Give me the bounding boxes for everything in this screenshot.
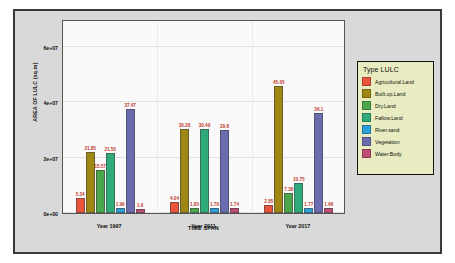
x-axis-title: TIME SPAN xyxy=(62,225,345,231)
bar-item[interactable]: 21.85 xyxy=(86,21,95,213)
legend-swatch xyxy=(362,125,371,134)
bar[interactable] xyxy=(170,202,179,213)
bar-item[interactable]: 10.75 xyxy=(294,21,303,213)
bar-item[interactable]: 36.1 xyxy=(314,21,323,213)
bar[interactable] xyxy=(210,208,219,213)
bar[interactable] xyxy=(136,209,145,213)
bar[interactable] xyxy=(180,129,189,213)
bar-item[interactable]: 29.8 xyxy=(220,21,229,213)
plot-panel: 5.3421.8515.5721.501.9637.471.64.0430.28… xyxy=(62,20,345,214)
legend-item[interactable]: Built.up.Land xyxy=(362,88,429,99)
bar[interactable] xyxy=(324,208,333,213)
bar-value-label: 15.57 xyxy=(94,164,106,169)
bar-item[interactable]: 1.85 xyxy=(190,21,199,213)
bar-item[interactable]: 30.49 xyxy=(200,21,209,213)
legend-items: Agricultural.LandBuilt.up.LandDry.LandFa… xyxy=(362,76,429,159)
legend: Type LULC Agricultural.LandBuilt.up.Land… xyxy=(357,61,434,175)
bar-value-label: 5.34 xyxy=(76,192,85,197)
bar-item[interactable]: 37.47 xyxy=(126,21,135,213)
bar-value-label: 1.77 xyxy=(304,202,313,207)
bar-item[interactable]: 45.65 xyxy=(274,21,283,213)
bar-value-label: 1.76 xyxy=(210,202,219,207)
bar[interactable] xyxy=(76,198,85,213)
bar[interactable] xyxy=(294,183,303,213)
bar[interactable] xyxy=(126,109,135,213)
bar-item[interactable]: 4.04 xyxy=(170,21,179,213)
bar-item[interactable]: 1.66 xyxy=(324,21,333,213)
bar-value-label: 37.47 xyxy=(124,103,136,108)
bar-item[interactable]: 1.6 xyxy=(136,21,145,213)
legend-label: Agricultural.Land xyxy=(375,79,414,85)
legend-swatch xyxy=(362,113,371,122)
legend-swatch xyxy=(362,149,371,158)
bar-item[interactable]: 15.57 xyxy=(96,21,105,213)
bar-value-label: 10.75 xyxy=(293,177,305,182)
legend-label: Fallow.Land xyxy=(375,115,403,121)
bar-value-label: 21.50 xyxy=(104,147,116,152)
bar[interactable] xyxy=(116,208,125,213)
legend-item[interactable]: Water.Body xyxy=(362,148,429,159)
bar-group: 4.0430.281.8530.491.7629.81.74 xyxy=(157,21,251,213)
y-tick-label: 2e+07 xyxy=(43,156,58,162)
bar[interactable] xyxy=(314,113,323,213)
legend-title: Type LULC xyxy=(363,66,429,73)
bar-group: 5.3421.8515.5721.501.9637.471.6 xyxy=(63,21,157,213)
bar[interactable] xyxy=(304,208,313,213)
y-tick-label: 6e+07 xyxy=(43,45,58,51)
legend-swatch xyxy=(362,89,371,98)
bar-value-label: 1.6 xyxy=(137,203,143,208)
bar[interactable] xyxy=(264,205,273,213)
bar-item[interactable]: 1.76 xyxy=(210,21,219,213)
bar-value-label: 1.66 xyxy=(324,202,333,207)
bar[interactable] xyxy=(200,129,209,214)
bar[interactable] xyxy=(284,193,293,213)
bar[interactable] xyxy=(86,152,95,213)
legend-item[interactable]: River.sand xyxy=(362,124,429,135)
legend-label: Water.Body xyxy=(375,151,402,157)
bar-group: 2.8545.657.3810.751.7736.11.66 xyxy=(252,21,345,213)
bar-item[interactable]: 5.34 xyxy=(76,21,85,213)
bar[interactable] xyxy=(230,208,239,213)
y-tick-label: 0e+00 xyxy=(43,211,58,217)
bar-value-label: 45.65 xyxy=(273,80,285,85)
bar-value-label: 4.04 xyxy=(170,196,179,201)
bar-item[interactable]: 21.50 xyxy=(106,21,115,213)
bar[interactable] xyxy=(96,170,105,213)
bar-item[interactable]: 1.74 xyxy=(230,21,239,213)
bar[interactable] xyxy=(190,208,199,213)
legend-item[interactable]: Vegetation xyxy=(362,136,429,147)
y-tick-label: 4e+07 xyxy=(43,100,58,106)
bar-item[interactable]: 2.85 xyxy=(264,21,273,213)
bar-value-label: 36.1 xyxy=(314,107,323,112)
legend-label: Dry.Land xyxy=(375,103,396,109)
bar[interactable] xyxy=(220,130,229,213)
legend-item[interactable]: Agricultural.Land xyxy=(362,76,429,87)
legend-label: River.sand xyxy=(375,127,400,133)
bar-item[interactable]: 1.77 xyxy=(304,21,313,213)
y-axis-title: AREA OF LULC (sq.m) xyxy=(32,44,38,140)
bar-value-label: 21.85 xyxy=(84,146,96,151)
bar-value-label: 1.85 xyxy=(190,202,199,207)
legend-label: Built.up.Land xyxy=(375,91,405,97)
legend-item[interactable]: Dry.Land xyxy=(362,100,429,111)
bar-value-label: 7.38 xyxy=(284,187,293,192)
bar-value-label: 1.96 xyxy=(116,202,125,207)
bar-value-label: 29.8 xyxy=(220,124,229,129)
legend-label: Vegetation xyxy=(375,139,400,145)
bar-value-label: 2.85 xyxy=(264,199,273,204)
bar-value-label: 30.28 xyxy=(179,123,191,128)
bar-item[interactable]: 30.28 xyxy=(180,21,189,213)
legend-swatch xyxy=(362,137,371,146)
legend-item[interactable]: Fallow.Land xyxy=(362,112,429,123)
bar-item[interactable]: 7.38 xyxy=(284,21,293,213)
legend-swatch xyxy=(362,101,371,110)
bar-value-label: 1.74 xyxy=(230,202,239,207)
bar-value-label: 30.49 xyxy=(199,123,211,128)
bar[interactable] xyxy=(274,86,283,213)
bar[interactable] xyxy=(106,153,115,213)
bar-item[interactable]: 1.96 xyxy=(116,21,125,213)
chart-figure: 0e+002e+074e+076e+07 AREA OF LULC (sq.m)… xyxy=(13,9,442,254)
legend-swatch xyxy=(362,77,371,86)
